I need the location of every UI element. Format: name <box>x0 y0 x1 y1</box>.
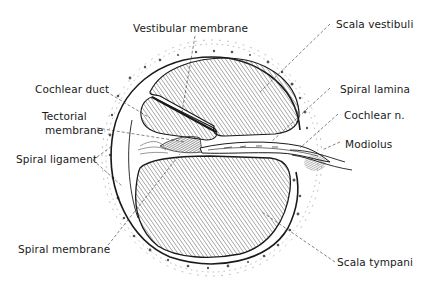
cochlea-cross-section-diagram: Vestibular membrane Scala vestibuli Coch… <box>0 0 424 285</box>
label-cochlear-duct: Cochlear duct <box>35 83 109 96</box>
label-scala-tympani: Scala tympani <box>337 256 413 269</box>
label-spiral-ligament: Spiral ligament <box>16 153 97 166</box>
label-scala-vestibuli: Scala vestibuli <box>336 18 413 31</box>
label-tectorial-membrane-line1: Tectorial <box>42 110 87 123</box>
label-spiral-lamina: Spiral lamina <box>340 83 410 96</box>
label-cochlear-n: Cochlear n. <box>344 109 405 122</box>
label-tectorial-membrane-line2: membrane <box>45 124 103 137</box>
label-spiral-membrane: Spiral membrane <box>18 243 110 256</box>
label-vestibular-membrane: Vestibular membrane <box>133 22 248 35</box>
organ-of-corti <box>138 136 202 154</box>
label-modiolus: Modiolus <box>345 138 392 151</box>
scala-tympani-region <box>136 156 291 257</box>
